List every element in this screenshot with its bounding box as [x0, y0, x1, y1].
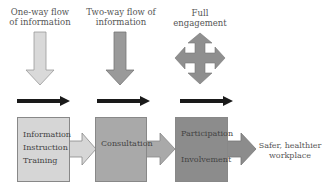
box-item: Information	[23, 130, 71, 139]
right-arrow-icon	[97, 96, 150, 106]
header-line: Full engagement	[165, 8, 235, 28]
outcome-label: Safer, healthier workplace	[258, 141, 322, 161]
right-arrow-icon	[17, 96, 70, 106]
header-line: One-way flow	[0, 7, 80, 17]
down-arrow-icon	[26, 32, 54, 85]
outcome-line: Safer, healthier	[258, 141, 322, 151]
stage-1-box: Information Instruction Training	[17, 117, 70, 182]
stage-2-box: Consultation	[95, 117, 147, 182]
header-line: of information	[0, 17, 80, 27]
stage-1-header: One-way flow of information	[0, 7, 80, 27]
stage-3-header: Full engagement	[165, 8, 235, 28]
four-way-arrow-icon	[175, 33, 225, 84]
box-item: Instruction	[23, 143, 68, 152]
box-item: Involvement	[181, 155, 231, 164]
down-arrow-icon	[106, 32, 134, 85]
block-arrow-icon	[146, 133, 175, 165]
right-arrow-icon	[180, 96, 233, 106]
header-line: Two-way flow of	[80, 7, 162, 17]
stage-3-box: Participation Involvement	[175, 117, 228, 182]
box-item: Consultation	[101, 139, 153, 148]
box-item: Participation	[181, 129, 233, 138]
stage-2-header: Two-way flow of information	[80, 7, 162, 27]
block-arrow-icon	[69, 133, 96, 165]
box-item: Training	[23, 156, 57, 165]
outcome-line: workplace	[258, 151, 322, 161]
header-line: information	[80, 17, 162, 27]
